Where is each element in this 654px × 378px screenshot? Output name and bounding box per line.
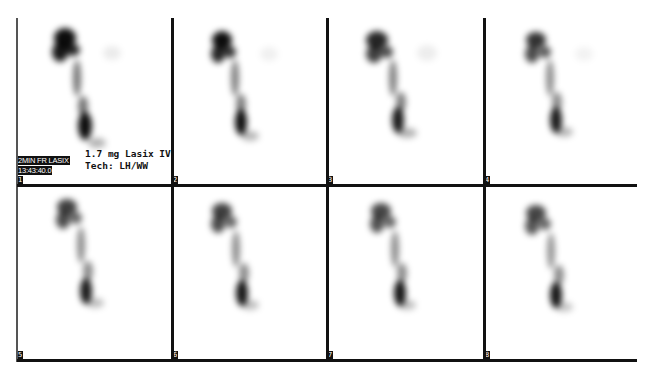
scan-panel-8[interactable]: 8 xyxy=(484,187,637,359)
scan-panel-6[interactable]: 6 xyxy=(172,187,327,359)
frame-timestamp: 13:43:40.0 xyxy=(17,166,52,175)
frame-tag-label: 2MIN FR LASIX xyxy=(17,156,70,165)
scan-panel-2[interactable]: 2 xyxy=(172,18,327,184)
study-annotation: 1.7 mg Lasix IV Tech: LH/WW xyxy=(85,148,171,172)
tech-initials-text: Tech: LH/WW xyxy=(85,160,148,171)
lasix-dose-text: 1.7 mg Lasix IV xyxy=(85,148,171,159)
renal-scan-image xyxy=(172,18,327,184)
renal-scan-image xyxy=(327,18,484,184)
renal-scan-image xyxy=(484,187,637,359)
grid-divider xyxy=(171,18,174,362)
scan-panel-4[interactable]: 4 xyxy=(484,18,637,184)
scan-grid: 2MIN FR LASIX 13:43:40.0 1.7 mg Lasix IV… xyxy=(17,18,637,360)
renal-scan-image xyxy=(17,187,172,359)
grid-divider xyxy=(17,359,637,362)
scan-panel-1[interactable]: 2MIN FR LASIX 13:43:40.0 1.7 mg Lasix IV… xyxy=(17,18,172,184)
scan-panel-3[interactable]: 3 xyxy=(327,18,484,184)
scan-panel-5[interactable]: 5 xyxy=(17,187,172,359)
grid-divider xyxy=(17,184,637,187)
scan-panel-7[interactable]: 7 xyxy=(327,187,484,359)
renal-scan-image xyxy=(172,187,327,359)
renal-scan-image xyxy=(484,18,637,184)
grid-divider xyxy=(16,18,18,362)
grid-divider xyxy=(483,18,486,362)
grid-divider xyxy=(326,18,329,362)
renal-scan-image xyxy=(327,187,484,359)
